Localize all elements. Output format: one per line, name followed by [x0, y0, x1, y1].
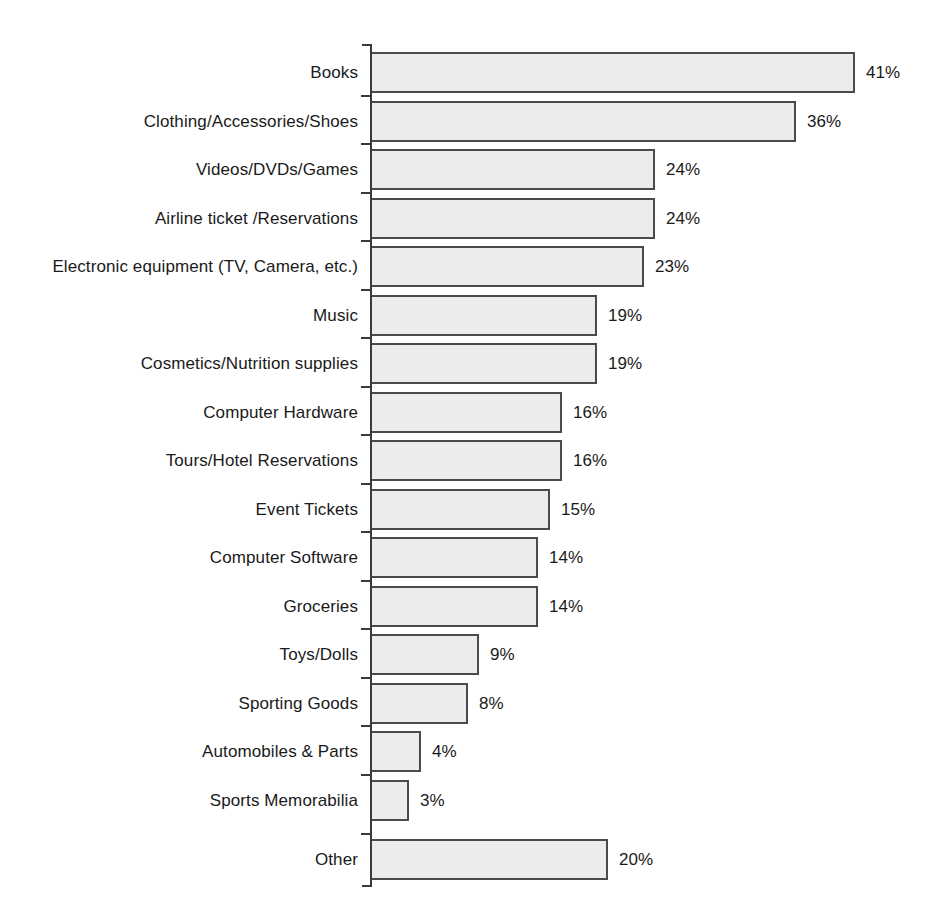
bar	[372, 246, 644, 287]
bar-value-label: 14%	[549, 537, 583, 578]
bar-value-label: 16%	[573, 440, 607, 481]
bar	[372, 537, 538, 578]
bar-value-label: 14%	[549, 586, 583, 627]
category-label: Books	[310, 52, 358, 93]
chart-row: Groceries14%	[0, 586, 948, 627]
category-label: Sporting Goods	[238, 683, 358, 724]
chart-row: Tours/Hotel Reservations16%	[0, 440, 948, 481]
bar-value-label: 20%	[619, 839, 653, 880]
bar	[372, 198, 655, 239]
bar	[372, 440, 562, 481]
axis-tick	[361, 774, 372, 776]
chart-row: Computer Hardware16%	[0, 392, 948, 433]
bar-value-label: 15%	[561, 489, 595, 530]
chart-row: Sports Memorabilia3%	[0, 780, 948, 821]
bar	[372, 343, 597, 384]
bar-value-label: 23%	[655, 246, 689, 287]
axis-tick	[361, 386, 372, 388]
bar-value-label: 3%	[420, 780, 445, 821]
category-label: Videos/DVDs/Games	[196, 149, 358, 190]
bar-value-label: 19%	[608, 343, 642, 384]
axis-tick	[361, 289, 372, 291]
axis-tick	[361, 434, 372, 436]
chart-row: Automobiles & Parts4%	[0, 731, 948, 772]
axis-tick	[361, 833, 372, 835]
axis-tick	[361, 95, 372, 97]
category-label: Cosmetics/Nutrition supplies	[141, 343, 358, 384]
chart-row: Other20%	[0, 839, 948, 880]
axis-tick	[361, 240, 372, 242]
chart-row: Toys/Dolls9%	[0, 634, 948, 675]
chart-row: Cosmetics/Nutrition supplies19%	[0, 343, 948, 384]
category-label: Clothing/Accessories/Shoes	[144, 101, 358, 142]
axis-tick	[361, 143, 372, 145]
category-label: Computer Hardware	[203, 392, 358, 433]
category-label: Event Tickets	[256, 489, 358, 530]
bar-value-label: 36%	[807, 101, 841, 142]
plot-area: Books41%Clothing/Accessories/Shoes36%Vid…	[0, 0, 948, 918]
category-label: Other	[315, 839, 358, 880]
category-label: Tours/Hotel Reservations	[166, 440, 358, 481]
axis-tick	[361, 628, 372, 630]
bar-value-label: 41%	[866, 52, 900, 93]
bar	[372, 52, 855, 93]
bar-value-label: 24%	[666, 149, 700, 190]
chart-row: Event Tickets15%	[0, 489, 948, 530]
axis-tick	[361, 580, 372, 582]
bar-value-label: 16%	[573, 392, 607, 433]
bar	[372, 101, 796, 142]
category-label: Automobiles & Parts	[202, 731, 358, 772]
axis-tick	[361, 337, 372, 339]
category-label: Music	[313, 295, 358, 336]
bar	[372, 839, 608, 880]
bar	[372, 683, 468, 724]
chart-row: Airline ticket /Reservations24%	[0, 198, 948, 239]
category-label: Electronic equipment (TV, Camera, etc.)	[52, 246, 358, 287]
chart-row: Sporting Goods8%	[0, 683, 948, 724]
bar-value-label: 24%	[666, 198, 700, 239]
chart-row: Music19%	[0, 295, 948, 336]
bar-value-label: 9%	[490, 634, 515, 675]
axis-top-cap	[362, 44, 372, 46]
bar	[372, 586, 538, 627]
category-label: Groceries	[283, 586, 358, 627]
category-label: Computer Software	[210, 537, 358, 578]
category-label: Toys/Dolls	[280, 634, 358, 675]
bar-chart: Books41%Clothing/Accessories/Shoes36%Vid…	[0, 0, 948, 918]
axis-tick	[361, 483, 372, 485]
axis-tick	[361, 725, 372, 727]
chart-row: Computer Software14%	[0, 537, 948, 578]
category-label: Sports Memorabilia	[210, 780, 358, 821]
axis-bottom-cap	[362, 885, 372, 887]
axis-tick	[361, 531, 372, 533]
bar	[372, 731, 421, 772]
bar	[372, 634, 479, 675]
chart-row: Videos/DVDs/Games24%	[0, 149, 948, 190]
chart-row: Books41%	[0, 52, 948, 93]
bar	[372, 295, 597, 336]
bar-value-label: 19%	[608, 295, 642, 336]
bar	[372, 149, 655, 190]
bar-value-label: 4%	[432, 731, 457, 772]
axis-tick	[361, 192, 372, 194]
chart-row: Electronic equipment (TV, Camera, etc.)2…	[0, 246, 948, 287]
bar-value-label: 8%	[479, 683, 504, 724]
chart-row: Clothing/Accessories/Shoes36%	[0, 101, 948, 142]
axis-tick	[361, 677, 372, 679]
bar	[372, 392, 562, 433]
bar	[372, 780, 409, 821]
bar	[372, 489, 550, 530]
category-label: Airline ticket /Reservations	[155, 198, 358, 239]
